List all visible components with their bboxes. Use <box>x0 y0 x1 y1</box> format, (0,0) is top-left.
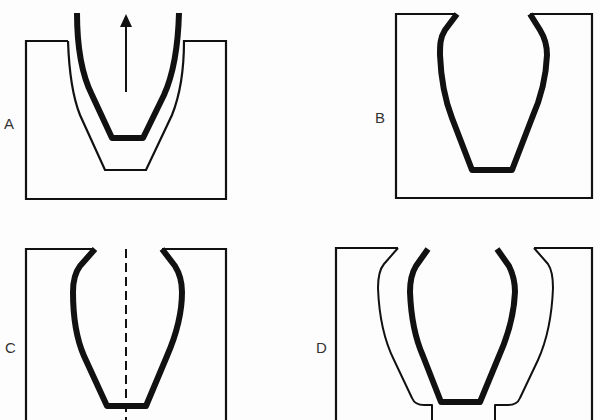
diagram-canvas: A B C D <box>0 0 600 420</box>
crucible-wall-b <box>440 14 547 170</box>
panel-label-b: B <box>375 109 385 126</box>
panel-a: A <box>4 13 226 199</box>
mould-outline-d <box>336 248 592 420</box>
crucible-a <box>77 13 179 138</box>
panel-d: D <box>316 248 592 420</box>
panel-label-a: A <box>4 115 14 132</box>
crucible-wall-c <box>73 249 182 406</box>
panel-b: B <box>375 14 592 198</box>
panel-label-d: D <box>316 339 327 356</box>
arrow-up-icon <box>120 14 132 27</box>
panel-label-c: C <box>5 339 16 356</box>
panel-c: C <box>5 249 226 420</box>
mould-cavity-d <box>378 248 553 420</box>
crucible-d <box>410 249 515 402</box>
